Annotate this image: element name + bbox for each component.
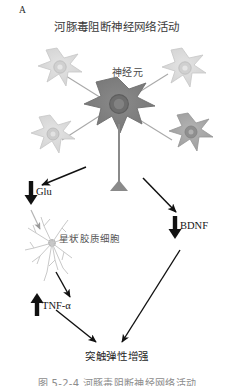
neuron-top-right [162,48,206,87]
arrow-network-to-bdnf [143,178,176,212]
figure-panel-a: A 河豚毒阻断神经网络活动 [0,0,234,386]
label-astrocyte: 星状胶质细胞 [59,231,121,245]
arrow-astrocyte-to-tnf [56,272,70,297]
arrow-glu-to-astrocyte [31,210,40,229]
arrow-network-to-glu [42,167,86,185]
astrocyte-cell [25,217,79,281]
arrow-bdnf-to-outcome [122,250,180,342]
label-bdnf: BDNF [180,220,208,231]
label-neuron: 神经元 [112,64,143,79]
label-glu: Glu [36,186,52,197]
neuron-mid-left [31,115,75,153]
neuron-mid-right [169,113,213,151]
label-tnf-alpha: TNF-α [42,300,71,311]
label-outcome: 突触弹性增强 [0,348,234,363]
arrow-tnf-to-outcome [56,310,96,342]
neuron-top-left [38,48,82,86]
figure-caption: 图 5-2-4 河豚毒阻断神经网络活动 [0,375,234,386]
